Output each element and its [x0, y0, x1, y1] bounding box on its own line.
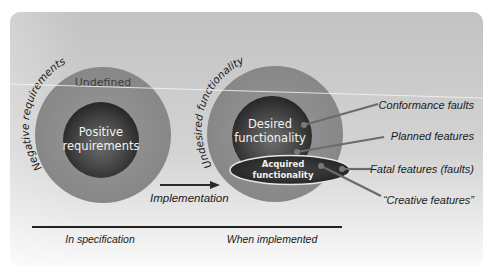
callout-planned-features: Planned features — [391, 130, 475, 142]
positive-requirements-line1: Positive — [79, 125, 123, 139]
dot-conformance-faults — [301, 122, 307, 128]
caption-when-implemented: When implemented — [227, 233, 319, 245]
callout-conformance-faults: Conformance faults — [379, 99, 475, 111]
dot-fatal-features — [339, 166, 345, 172]
dot-creative-features — [318, 163, 324, 169]
positive-requirements-line2: requirements — [63, 139, 140, 153]
implementation-label: Implementation — [150, 192, 229, 204]
requirements-diagram: Undefined Positive requirements Negative… — [0, 0, 493, 276]
dot-planned-features — [294, 149, 300, 155]
callout-creative-features: “Creative features” — [383, 194, 475, 206]
implementation-arrow: Implementation — [150, 181, 229, 204]
callout-fatal-features: Fatal features (faults) — [370, 163, 474, 175]
acquired-functionality-line1: Acquired — [262, 159, 305, 169]
caption-in-specification: In specification — [65, 233, 135, 245]
desired-functionality-line2: functionality — [234, 131, 306, 145]
desired-functionality-line1: Desired — [248, 117, 292, 131]
acquired-functionality-line2: functionality — [253, 170, 314, 180]
